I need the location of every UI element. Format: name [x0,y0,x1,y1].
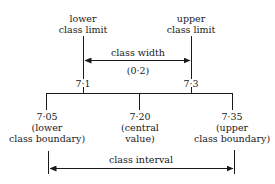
central-value: 7·20 (central value) [121,111,159,144]
boundary-label: class boundary) [194,133,270,144]
lower-class-boundary: 7·05 (lower class boundary) [9,111,85,144]
lower-limit-value: 7·1 [75,78,90,89]
boundary-label: class boundary) [9,133,85,144]
upper-limit-value: 7·3 [183,78,198,89]
boundary-value: 7·20 [121,111,159,122]
label-line: class limit [59,24,108,35]
label-line: class limit [167,24,216,35]
class-width-value: (0·2) [127,65,150,76]
upper-class-limit-label: upper class limit [167,13,216,35]
boundary-value: 7·35 [194,111,270,122]
label-line: upper [167,13,216,24]
lower-class-limit-label: lower class limit [59,13,108,35]
class-limits-diagram: lower class limit upper class limit clas… [0,0,275,184]
class-width-label: class width [111,47,165,58]
boundary-label: (lower [9,122,85,133]
class-interval-label: class interval [109,154,173,165]
upper-class-boundary: 7·35 (upper class boundary) [194,111,270,144]
boundary-label: (central [121,122,159,133]
label-line: lower [59,13,108,24]
boundary-label: (upper [194,122,270,133]
boundary-value: 7·05 [9,111,85,122]
boundary-label: value) [121,133,159,144]
